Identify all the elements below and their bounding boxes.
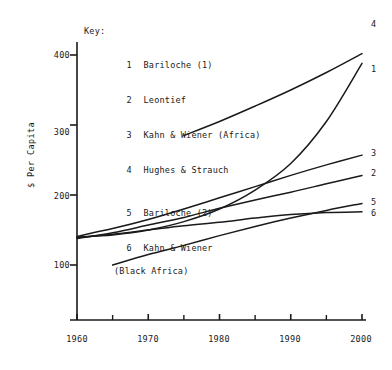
series-line-6 — [77, 212, 362, 238]
series-line-2 — [77, 175, 362, 238]
series-line-1 — [77, 63, 362, 237]
x-axis-ticks — [77, 314, 362, 320]
chart-figure: Key: 1Bariloche (1) 2Leontief 3Kahn & Wi… — [0, 0, 392, 370]
series-line-4 — [184, 54, 362, 136]
series-line-3 — [77, 155, 362, 236]
y-axis-ticks — [70, 55, 77, 265]
data-curves — [77, 54, 362, 265]
axis-lines — [70, 42, 366, 320]
plot-area — [0, 0, 392, 370]
